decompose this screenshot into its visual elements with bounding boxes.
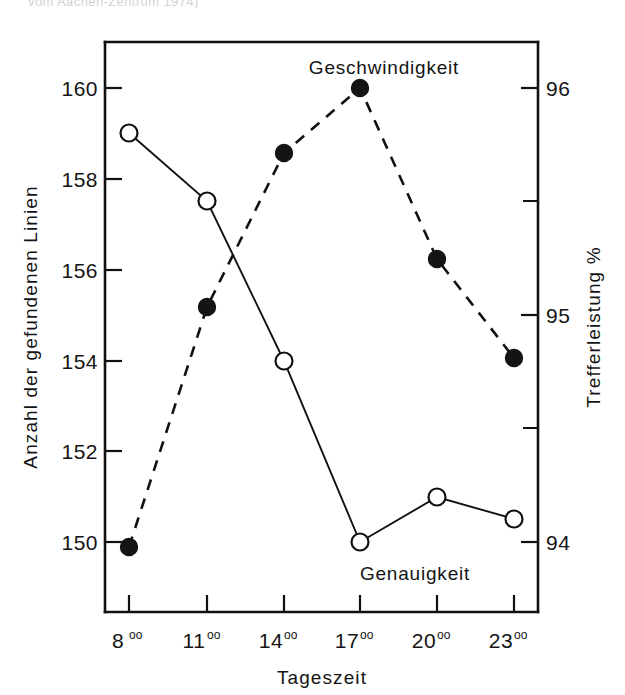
left-tick-label-158: 158 xyxy=(61,168,98,191)
right-tick-label-96: 96 xyxy=(546,77,570,100)
x-tick-label-20-number: 20 xyxy=(412,629,436,652)
series-geschwindigkeit xyxy=(121,80,523,556)
genauigkeit-point-11 xyxy=(199,193,216,210)
cropped-caption-text: vom Aachen-Zentrum 1974) xyxy=(28,0,328,8)
x-tick-label-8-suffix: oo xyxy=(129,628,143,642)
x-tick-label-8-number: 8 xyxy=(112,629,124,652)
x-axis-ticks xyxy=(129,595,514,612)
right-axis-ticks xyxy=(521,88,538,542)
geschwindigkeit-point-20 xyxy=(429,251,446,268)
left-tick-label-152: 152 xyxy=(61,440,98,463)
left-axis-tick-labels: 160 158 156 154 152 150 xyxy=(61,77,98,554)
dual-axis-line-chart: 160 158 156 154 152 150 96 95 94 xyxy=(0,0,625,695)
genauigkeit-point-14 xyxy=(276,353,293,370)
annotation-genauigkeit: Genauigkeit xyxy=(360,563,470,584)
x-tick-label-14-number: 14 xyxy=(259,629,283,652)
annotation-geschwindigkeit: Geschwindigkeit xyxy=(309,57,459,78)
right-tick-label-94: 94 xyxy=(546,531,570,554)
x-tick-label-17-number: 17 xyxy=(335,629,359,652)
left-tick-label-156: 156 xyxy=(61,259,98,282)
left-axis-ticks xyxy=(105,88,122,542)
x-axis-tick-labels: 8 oo 11 oo 14 oo 17 oo 20 oo 23 oo xyxy=(112,628,528,652)
genauigkeit-point-20 xyxy=(429,489,446,506)
geschwindigkeit-point-8 xyxy=(121,539,138,556)
left-axis-title: Anzahl der gefundenen Linien xyxy=(20,185,41,468)
series-genauigkeit xyxy=(121,125,523,551)
x-tick-label-23-suffix: oo xyxy=(514,628,528,642)
geschwindigkeit-point-23 xyxy=(506,350,523,367)
chart-figure: vom Aachen-Zentrum 1974) 160 158 156 154… xyxy=(0,0,625,695)
x-axis-title: Tageszeit xyxy=(277,667,367,688)
x-tick-label-20-suffix: oo xyxy=(437,628,451,642)
x-tick-label-11-suffix: oo xyxy=(207,628,221,642)
x-tick-label-11-number: 11 xyxy=(183,629,206,652)
x-tick-label-23-number: 23 xyxy=(489,629,513,652)
geschwindigkeit-point-17 xyxy=(352,80,369,97)
genauigkeit-point-17 xyxy=(352,534,369,551)
x-tick-label-20: 20 oo xyxy=(412,628,451,652)
genauigkeit-point-8 xyxy=(121,125,138,142)
left-tick-label-154: 154 xyxy=(61,350,98,373)
genauigkeit-point-23 xyxy=(506,511,523,528)
x-tick-label-14-suffix: oo xyxy=(284,628,298,642)
geschwindigkeit-point-11 xyxy=(199,299,216,316)
geschwindigkeit-point-14 xyxy=(276,145,293,162)
x-tick-label-11: 11 oo xyxy=(183,628,221,652)
right-axis-title: Trefferleistung % xyxy=(583,246,604,407)
geschwindigkeit-line xyxy=(129,88,514,547)
x-tick-label-17: 17 oo xyxy=(335,628,374,652)
right-tick-label-95: 95 xyxy=(546,304,570,327)
left-tick-label-150: 150 xyxy=(61,531,98,554)
left-tick-label-160: 160 xyxy=(61,77,98,100)
x-tick-label-17-suffix: oo xyxy=(360,628,374,642)
x-tick-label-8: 8 oo xyxy=(112,628,143,652)
right-axis-tick-labels: 96 95 94 xyxy=(546,77,570,554)
plot-frame xyxy=(105,42,538,612)
genauigkeit-line xyxy=(129,133,514,542)
x-tick-label-23: 23 oo xyxy=(489,628,528,652)
x-tick-label-14: 14 oo xyxy=(259,628,298,652)
